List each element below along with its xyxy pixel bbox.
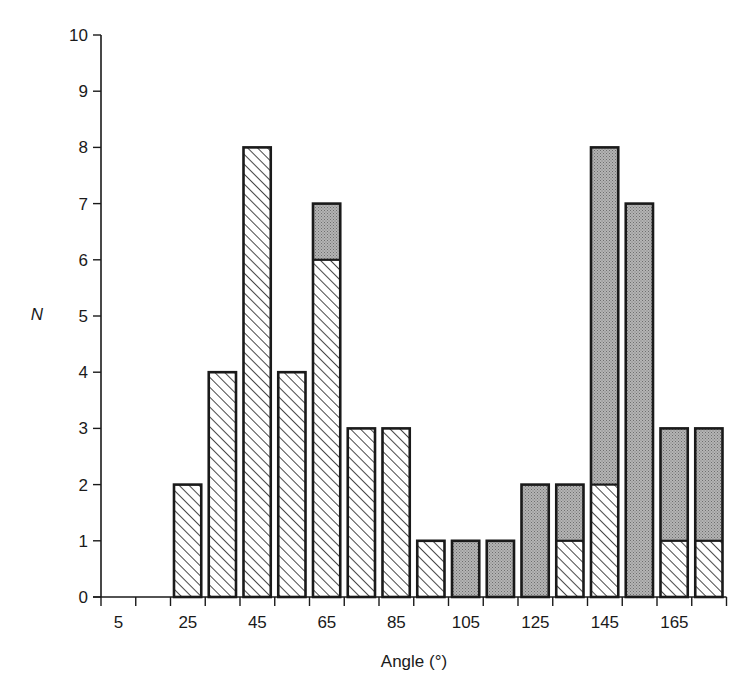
bar-65 [313, 204, 340, 597]
histogram-chart: 012345678910 525456585105125145165 N Ang… [0, 0, 748, 695]
bars-group [174, 147, 723, 597]
bar-115 [487, 541, 514, 597]
x-axis-title: Angle (°) [381, 652, 447, 671]
bar-segment-hatched [591, 485, 618, 597]
bar-segment-hatched [174, 485, 201, 597]
bar-segment-hatched [661, 541, 688, 597]
x-tick-label: 85 [387, 613, 406, 632]
bar-segment-hatched [556, 541, 583, 597]
y-tick-label: 9 [79, 82, 88, 101]
y-tick-label: 2 [79, 476, 88, 495]
y-tick-label: 5 [79, 307, 88, 326]
bar-55 [278, 372, 305, 597]
bar-155 [626, 204, 653, 597]
x-axis: 525456585105125145165 [93, 597, 727, 632]
bar-25 [174, 485, 201, 597]
bar-segment-shaded [591, 147, 618, 484]
bar-segment-shaded [556, 485, 583, 541]
y-tick-label: 6 [79, 251, 88, 270]
bar-145 [591, 147, 618, 597]
y-tick-label: 1 [79, 532, 88, 551]
y-tick-label: 10 [69, 26, 88, 45]
bar-segment-shaded [695, 428, 722, 540]
bar-segment-shaded [487, 541, 514, 597]
bar-105 [452, 541, 479, 597]
bar-95 [417, 541, 444, 597]
y-tick-label: 8 [79, 138, 88, 157]
y-axis: 012345678910 [69, 26, 101, 607]
y-tick-label: 3 [79, 419, 88, 438]
bar-segment-hatched [278, 372, 305, 597]
bar-segment-shaded [661, 428, 688, 540]
y-tick-label: 4 [79, 363, 88, 382]
bar-165 [661, 428, 688, 597]
bar-135 [556, 485, 583, 597]
x-tick-label: 145 [591, 613, 619, 632]
bar-segment-shaded [626, 204, 653, 597]
bar-segment-hatched [244, 147, 271, 597]
bar-75 [348, 428, 375, 597]
y-tick-label: 7 [79, 195, 88, 214]
x-tick-label: 25 [178, 613, 197, 632]
x-tick-label: 125 [521, 613, 549, 632]
x-tick-label: 5 [114, 613, 123, 632]
bar-175 [695, 428, 722, 597]
bar-segment-hatched [417, 541, 444, 597]
x-tick-label: 45 [248, 613, 267, 632]
bar-45 [244, 147, 271, 597]
bar-segment-shaded [452, 541, 479, 597]
bar-segment-hatched [348, 428, 375, 597]
bar-segment-hatched [313, 260, 340, 597]
bar-125 [522, 485, 549, 597]
x-tick-label: 65 [317, 613, 336, 632]
x-tick-label: 105 [452, 613, 480, 632]
bar-35 [209, 372, 236, 597]
bar-segment-hatched [695, 541, 722, 597]
bar-segment-hatched [209, 372, 236, 597]
bar-85 [383, 428, 410, 597]
bar-segment-shaded [522, 485, 549, 597]
x-tick-label: 165 [660, 613, 688, 632]
y-tick-label: 0 [79, 588, 88, 607]
y-axis-title: N [31, 305, 44, 324]
bar-segment-hatched [383, 428, 410, 597]
bar-segment-shaded [313, 204, 340, 260]
